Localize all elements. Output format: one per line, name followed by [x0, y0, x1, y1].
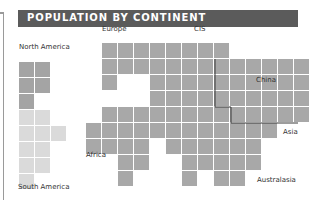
region-label-china: China — [256, 76, 276, 84]
region-label-australasia: Australasia — [257, 176, 296, 184]
region-label-south-america: South America — [18, 183, 69, 191]
region-label-north-america: North America — [19, 43, 70, 51]
region-label-africa: Africa — [86, 151, 106, 159]
region-label-europe: Europe — [102, 25, 127, 33]
region-label-cis: CIS — [194, 25, 205, 33]
china-border-line — [0, 0, 313, 200]
region-label-asia: Asia — [283, 128, 298, 136]
